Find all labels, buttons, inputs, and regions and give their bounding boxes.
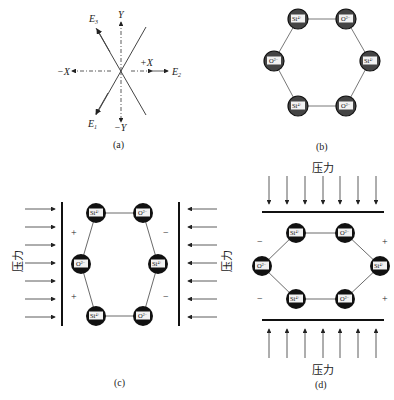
node-o: O2− <box>335 289 355 309</box>
panel-d-force-label-top: 压力 <box>312 162 334 174</box>
node-si: Si4+ <box>286 289 306 309</box>
panel-a-axes <box>72 22 168 122</box>
panel-c-nodes: Si4+ O2− Si4+ O2− Si4+ O2− <box>71 203 168 326</box>
neg-y-label: −Y <box>114 122 128 133</box>
panel-c-right-arrows <box>188 209 217 317</box>
node-o: O2− <box>264 51 284 71</box>
node-o: O2− <box>71 254 91 274</box>
panel-d-nodes: Si4+ O2− Si4+ O2− Si4+ O2− <box>252 223 390 309</box>
caption-a: (a) <box>113 139 124 151</box>
panel-c-left-arrows <box>25 209 55 317</box>
panel-c-force-label-left: 压力 <box>12 250 24 272</box>
neg-x-label: −X <box>57 66 71 77</box>
e2-label: E2 <box>171 66 181 78</box>
node-o: O2− <box>336 9 356 29</box>
panel-b-hexagon <box>274 19 370 106</box>
panel-d-minus-bottom: − <box>257 293 263 304</box>
e1-label: E1 <box>87 118 97 130</box>
node-si: Si4+ <box>288 9 308 29</box>
piezo-diagram: Y −Y −X +X E3 E2 E1 (a) Si4+ O2− Si4+ O2… <box>0 0 394 400</box>
panel-d-hexagon <box>262 233 380 299</box>
panel-d-force-label-bottom: 压力 <box>312 364 334 376</box>
node-si: Si4+ <box>370 256 390 276</box>
e3-label: E3 <box>88 13 98 25</box>
caption-c: (c) <box>114 377 125 389</box>
node-o: O2− <box>336 96 356 116</box>
node-o: O2− <box>252 256 272 276</box>
panel-c-force-label-right: 压力 <box>221 250 233 272</box>
panel-d-plus-bottom: + <box>382 293 388 304</box>
panel-d-bottom-arrows <box>269 329 376 358</box>
node-si: Si4+ <box>86 306 106 326</box>
e1-arrow <box>96 93 108 114</box>
node-o: O2− <box>133 203 153 223</box>
node-o: O2− <box>133 306 153 326</box>
panel-d-top-arrows <box>269 176 376 204</box>
pos-x-label: +X <box>140 57 154 68</box>
panel-b-nodes: Si4+ O2− Si4+ O2− Si4+ O2− <box>264 9 380 116</box>
caption-d: (d) <box>315 379 327 391</box>
y-label: Y <box>118 9 125 20</box>
node-si: Si4+ <box>360 51 380 71</box>
panel-c-plus-bottom: + <box>71 291 77 302</box>
node-si: Si4+ <box>288 96 308 116</box>
e3-arrow <box>97 29 110 52</box>
node-si: Si4+ <box>86 203 106 223</box>
panel-d-minus-top: − <box>257 236 263 247</box>
panel-c-hexagon <box>81 213 158 316</box>
panel-c-plus-top: + <box>71 227 77 238</box>
node-si: Si4+ <box>148 254 168 274</box>
node-si: Si4+ <box>286 223 306 243</box>
panel-d-plus-top: + <box>382 236 388 247</box>
panel-c-minus-top: − <box>163 227 169 238</box>
node-o: O2− <box>335 223 355 243</box>
caption-b: (b) <box>316 141 328 153</box>
panel-c-minus-bottom: − <box>163 291 169 302</box>
